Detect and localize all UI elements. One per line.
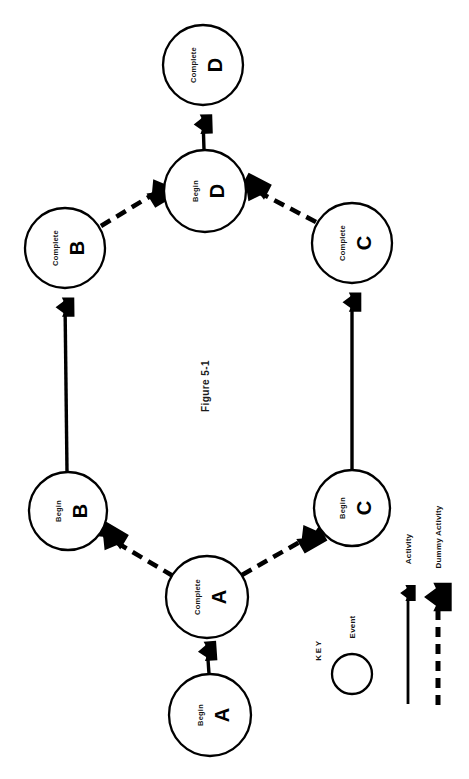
node-complete-d-label: D (204, 58, 227, 72)
node-complete-a-sub: Complete (193, 579, 202, 615)
key-event-label: Event (348, 616, 357, 639)
node-begin-c-sub: Begin (338, 497, 347, 519)
edge-begin-d-to-complete-d (203, 118, 204, 150)
node-complete-d-sub: Complete (189, 47, 198, 83)
edge-complete-a-to-begin-b (104, 535, 173, 576)
key-title: KEY (314, 639, 323, 660)
node-begin-b-label: B (69, 504, 92, 518)
key-event-circle (332, 654, 372, 694)
node-begin-b-sub: Begin (54, 500, 63, 522)
edge-complete-c-to-begin-d (247, 186, 316, 222)
edge-begin-b-to-complete-b (65, 301, 67, 472)
edge-complete-b-to-begin-d (101, 186, 167, 226)
node-complete-b-sub: Complete (51, 230, 60, 266)
node-begin-d-label: D (206, 184, 229, 198)
figure-canvas: Complete D Begin D Complete B Complete C… (0, 0, 469, 779)
node-complete-c-label: C (353, 236, 376, 250)
node-begin-a-label: A (211, 708, 234, 722)
node-begin-d-sub: Begin (191, 180, 200, 202)
network-diagram (0, 0, 469, 779)
node-complete-b-label: B (66, 241, 89, 255)
key-activity-label: Activity (404, 534, 413, 565)
figure-caption: Figure 5-1 (200, 360, 211, 412)
node-complete-c-sub: Complete (338, 225, 347, 261)
edge-complete-a-to-begin-c (242, 532, 317, 575)
key-dummy-label: Dummy Activity (434, 506, 443, 569)
node-begin-c-label: C (353, 501, 376, 515)
node-complete-a-label: A (208, 590, 231, 604)
key-symbols-layer (332, 588, 438, 705)
node-begin-a-sub: Begin (196, 704, 205, 726)
edge-begin-a-to-complete-a (207, 645, 209, 674)
